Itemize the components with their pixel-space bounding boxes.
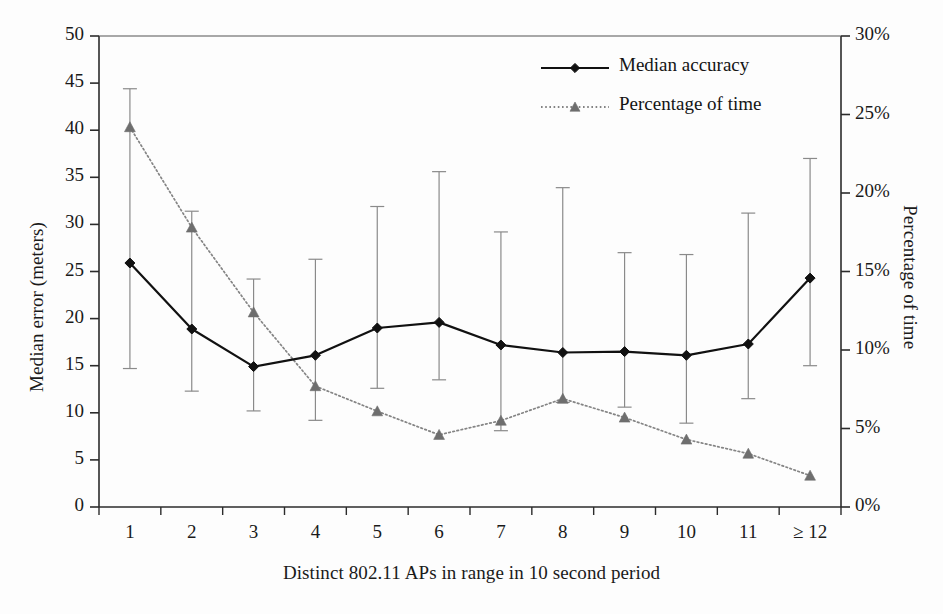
x-tick-label-10: 10 (655, 521, 717, 543)
y-right-tick-label-25: 25% (855, 102, 915, 124)
left-axis-ticks (90, 36, 99, 507)
y-left-tick-label-20: 20 (38, 306, 84, 328)
y-left-tick-label-15: 15 (38, 353, 84, 375)
x-tick-label-9: 9 (594, 521, 656, 543)
x-tick-label-6: 6 (408, 521, 470, 543)
x-tick-label-5: 5 (346, 521, 408, 543)
x-axis-title: Distinct 802.11 APs in range in 10 secon… (0, 562, 943, 584)
y-right-tick-label-30: 30% (855, 23, 915, 45)
x-tick-label-12: ≥ 12 (779, 521, 841, 543)
x-tick-label-11: 11 (717, 521, 779, 543)
x-tick-label-1: 1 (99, 521, 161, 543)
series-percentage-of-time (125, 122, 816, 481)
error-bars (123, 89, 817, 431)
y-right-tick-label-15: 15% (855, 259, 915, 281)
y-right-tick-label-20: 20% (855, 180, 915, 202)
x-tick-label-8: 8 (532, 521, 594, 543)
x-tick-label-4: 4 (284, 521, 346, 543)
y-left-tick-label-5: 5 (38, 447, 84, 469)
y-left-tick-label-0: 0 (38, 494, 84, 516)
x-axis-ticks (99, 507, 841, 515)
legend-label-median-accuracy: Median accuracy (619, 54, 749, 76)
y-left-tick-label-35: 35 (38, 164, 84, 186)
chart-figure: Median error (meters) Percentage of time… (0, 0, 943, 614)
legend-label-percentage-of-time: Percentage of time (619, 93, 761, 115)
y-left-tick-label-40: 40 (38, 117, 84, 139)
series-median-accuracy (125, 258, 815, 372)
x-tick-label-2: 2 (161, 521, 223, 543)
y-right-tick-label-0: 0% (855, 494, 915, 516)
y-left-tick-label-10: 10 (38, 400, 84, 422)
right-axis-ticks (841, 36, 850, 507)
y-right-tick-label-10: 10% (855, 337, 915, 359)
y-left-tick-label-45: 45 (38, 70, 84, 92)
x-tick-label-7: 7 (470, 521, 532, 543)
x-tick-label-3: 3 (223, 521, 285, 543)
y-left-tick-label-30: 30 (38, 211, 84, 233)
y-left-tick-label-50: 50 (38, 23, 84, 45)
legend-marks (541, 63, 609, 111)
y-left-tick-label-25: 25 (38, 259, 84, 281)
y-right-tick-label-5: 5% (855, 416, 915, 438)
